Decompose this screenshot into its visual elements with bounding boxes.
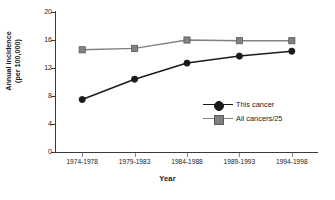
data-point-circle (236, 53, 242, 59)
legend-label: All cancers/25 (233, 114, 282, 123)
data-point-square (132, 45, 138, 51)
legend-swatch (203, 98, 233, 110)
series-plot-area (0, 0, 335, 200)
chart-legend: This cancerAll cancers/25 (203, 97, 282, 125)
series-this-cancer (79, 48, 295, 102)
data-point-circle (289, 48, 295, 54)
data-point-square (289, 38, 295, 44)
legend-marker-circle-icon (214, 101, 224, 111)
series-all-cancers (79, 37, 295, 53)
data-point-square (79, 47, 85, 53)
legend-swatch (203, 112, 233, 124)
data-point-circle (184, 60, 190, 66)
legend-marker-square-icon (214, 115, 224, 125)
legend-item[interactable]: All cancers/25 (203, 111, 282, 125)
legend-label: This cancer (233, 100, 274, 109)
series-line (82, 51, 292, 99)
chart-container: 048121620 1974-19781979-19831984-1988198… (0, 0, 335, 200)
legend-item[interactable]: This cancer (203, 97, 282, 111)
data-point-square (236, 38, 242, 44)
data-point-circle (79, 96, 85, 102)
data-point-circle (132, 76, 138, 82)
data-point-square (184, 37, 190, 43)
